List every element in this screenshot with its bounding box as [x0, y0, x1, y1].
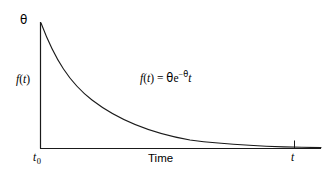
- x-origin-label-subscript: 0: [37, 156, 41, 166]
- equation-annotation: f(t) = θe−θt: [140, 73, 191, 85]
- y-axis-label-close-paren: ): [26, 73, 30, 85]
- exponential-density-figure: θ f(t) f(t) = θe−θt t0 Time t: [0, 0, 336, 187]
- x-origin-label: t0: [33, 152, 40, 164]
- equation-exponent: −θ: [179, 70, 189, 79]
- x-axis-label: Time: [148, 153, 173, 165]
- exponential-curve: [41, 23, 321, 148]
- y-max-theta-label: θ: [20, 14, 27, 26]
- x-origin-label-t: t: [33, 151, 36, 163]
- equation-equals: =: [157, 72, 164, 84]
- y-axis-label: f(t): [16, 74, 30, 86]
- x-tick-label: t: [291, 152, 294, 164]
- equation-close-paren: ): [150, 72, 154, 84]
- equation-exponent-t: t: [188, 72, 191, 84]
